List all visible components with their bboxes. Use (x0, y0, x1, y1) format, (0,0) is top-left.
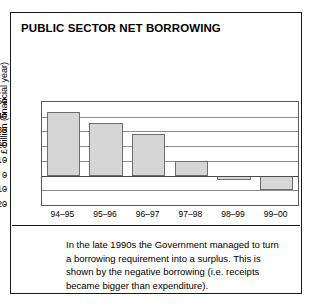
gridline (42, 146, 298, 147)
y-tick-mark (4, 116, 7, 117)
figure-frame: PUBLIC SECTOR NET BORROWING £ billion (f… (10, 12, 302, 294)
plot-area (41, 101, 299, 206)
gridline (42, 117, 298, 118)
x-tick-label: 95–96 (93, 209, 117, 219)
bar (132, 134, 165, 175)
y-tick-mark (4, 175, 7, 176)
y-tick-mark (4, 101, 7, 102)
plot-wrapper (41, 101, 299, 206)
y-tick-mark (4, 189, 7, 190)
x-tick-label: 99–00 (264, 209, 288, 219)
bar (260, 176, 293, 191)
y-tick-mark (4, 130, 7, 131)
x-axis-tick-labels: 94–9595–9696–9797–9898–9999–00 (41, 209, 299, 223)
x-tick-label: 98–99 (221, 209, 245, 219)
chart-title: PUBLIC SECTOR NET BORROWING (21, 22, 221, 34)
zero-line (42, 176, 298, 177)
caption-box: In the late 1990s the Government managed… (12, 225, 300, 292)
gridline (42, 131, 298, 132)
x-tick-label: 97–98 (178, 209, 202, 219)
y-tick-mark (4, 204, 7, 205)
bar (89, 123, 122, 176)
y-tick-mark (4, 145, 7, 146)
caption-text: In the late 1990s the Government managed… (66, 238, 286, 292)
x-tick-label: 94–95 (50, 209, 74, 219)
y-axis-tick-labels: 50403020100-10-20 (0, 101, 7, 206)
x-tick-label: 96–97 (136, 209, 160, 219)
gridline (42, 190, 298, 191)
bar (47, 112, 80, 175)
bar (175, 161, 208, 176)
y-tick-mark (4, 160, 7, 161)
gridline (42, 161, 298, 162)
